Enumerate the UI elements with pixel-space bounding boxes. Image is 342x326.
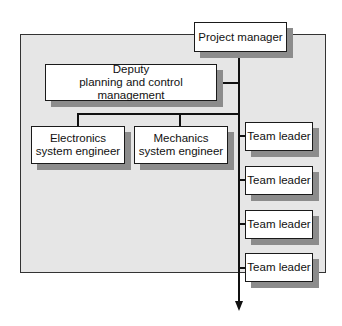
mechanics-engineer-node: Mechanics system engineer: [134, 126, 228, 164]
node-label: system engineer: [139, 145, 223, 158]
node-label: Team leader: [247, 218, 310, 231]
node-label: Mechanics: [154, 132, 209, 145]
team-leader-node: Team leader: [245, 253, 313, 282]
node-label: Team leader: [247, 174, 310, 187]
engineers-bus: [77, 113, 239, 115]
deputy-connector: [216, 82, 239, 84]
node-label: Team leader: [247, 261, 310, 274]
team-leader-node: Team leader: [245, 210, 313, 239]
team-leader-node: Team leader: [245, 166, 313, 195]
node-label: planning and control management: [46, 76, 216, 102]
mechanics-drop: [179, 113, 181, 127]
electronics-drop: [77, 113, 79, 127]
node-label: system engineer: [36, 145, 120, 158]
project-manager-node: Project manager: [194, 22, 287, 52]
node-label: Team leader: [247, 130, 310, 143]
trunk-line: [238, 50, 240, 302]
node-label: Electronics: [50, 132, 106, 145]
node-label: Deputy: [113, 63, 149, 76]
node-label: Project manager: [198, 31, 282, 44]
deputy-node: Deputy planning and control management: [45, 64, 217, 101]
electronics-engineer-node: Electronics system engineer: [31, 126, 125, 164]
team-leader-node: Team leader: [245, 122, 313, 151]
arrow-down-icon: [235, 301, 243, 311]
